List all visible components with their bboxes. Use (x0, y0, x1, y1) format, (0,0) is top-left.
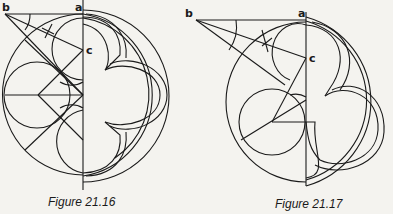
outer-ring-3 (83, 18, 149, 158)
figure-21-16-drawing (3, 0, 170, 190)
outer-ring-2-1 (306, 17, 371, 186)
arc-angle (25, 14, 30, 30)
outer-ring-2-2 (306, 21, 367, 180)
diagonal-line (5, 14, 83, 95)
line-lower-diag (25, 95, 83, 150)
caption-figure-21-16: Figure 21.16 (48, 195, 115, 209)
outer-ring-1 (83, 10, 169, 182)
line-to-c-2 (272, 58, 306, 122)
label-a-fig17: a (298, 7, 305, 20)
tracery-diagrams: b a c b a c (0, 0, 393, 214)
label-b-fig17: b (185, 7, 193, 20)
label-c-fig16: c (86, 44, 93, 57)
line-b-c (5, 14, 83, 50)
caption-figure-21-17: Figure 21.17 (275, 197, 342, 211)
lower-circle (57, 110, 83, 173)
lower-lobe-ring-2 (315, 86, 384, 170)
label-c-fig17: c (309, 52, 316, 65)
figure-21-17-drawing (196, 12, 384, 186)
label-a-fig16: a (75, 1, 82, 14)
right-lobe-ring (110, 61, 167, 129)
label-b-fig16: b (2, 1, 10, 14)
line-lower-2 (241, 100, 306, 140)
line-upper-diag (25, 40, 83, 95)
